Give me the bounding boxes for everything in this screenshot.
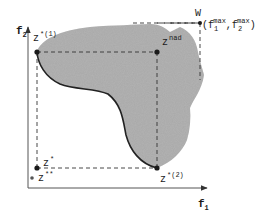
label-z-nad-sup: nad <box>169 34 182 42</box>
w-f1-sup: max <box>213 17 226 25</box>
label-z-star-sup: * <box>50 155 54 163</box>
point-z-star-1 <box>34 49 39 54</box>
w-paren-close: ) <box>250 20 256 31</box>
objective-space-diagram: f2 f1 z*(1) znad W (f1max,f2max) z*(2) z… <box>0 0 267 217</box>
label-z-star-star: z** <box>38 174 53 184</box>
label-z-star-2-z: z <box>160 174 166 185</box>
label-z-nad: znad <box>162 38 182 48</box>
point-z-star-2 <box>154 165 159 170</box>
w-f1-sub: 1 <box>214 25 218 33</box>
x-axis-label-f: f <box>198 198 205 210</box>
label-w: W <box>195 9 201 19</box>
label-w-letter: W <box>195 8 201 19</box>
w-f2-sup: max <box>237 17 250 25</box>
label-z-star-2: z*(2) <box>160 175 184 185</box>
y-axis-label-f: f <box>16 25 23 37</box>
label-z-star-1-sup: *(1) <box>40 30 57 38</box>
y-axis-label-sub: 2 <box>23 31 27 39</box>
label-z-star: z* <box>43 159 54 169</box>
label-z-star-z: z <box>43 158 49 169</box>
y-axis-label: f2 <box>16 26 27 37</box>
label-w-coords: (f1max,f2max) <box>202 21 256 31</box>
label-z-star-2-sup: *(2) <box>167 171 184 179</box>
point-z-star-star <box>30 176 34 180</box>
w-f2-sub: 2 <box>238 25 242 33</box>
label-z-nad-z: z <box>162 37 168 48</box>
label-z-star-star-z: z <box>38 173 44 184</box>
label-z-star-1: z*(1) <box>33 34 57 44</box>
point-z-nad <box>154 49 159 54</box>
label-z-star-1-z: z <box>33 33 39 44</box>
label-z-star-star-sup: ** <box>45 170 53 178</box>
x-axis-label: f1 <box>198 199 209 210</box>
point-z-star <box>34 165 39 170</box>
x-axis-label-sub: 1 <box>205 204 209 212</box>
